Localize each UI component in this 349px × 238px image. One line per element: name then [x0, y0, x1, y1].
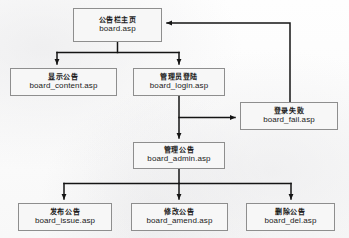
node-board-amend-title: 修改公告	[164, 209, 194, 216]
node-board-content[interactable]: 显示公告 board_content.asp	[10, 68, 117, 96]
node-board-content-file: board_content.asp	[30, 82, 98, 90]
node-board-content-title: 显示公告	[48, 74, 78, 81]
flowchart-diagram: 公告栏主页 board.asp 显示公告 board_content.asp 管…	[0, 0, 349, 238]
node-board-fail[interactable]: 登录失败 board_fail.asp	[240, 102, 338, 130]
node-board-file: board.asp	[99, 25, 135, 33]
node-board-fail-title: 登录失败	[274, 108, 304, 115]
node-board-admin-file: board_admin.asp	[147, 155, 210, 163]
node-board-login[interactable]: 管理员登陆 board_login.asp	[133, 68, 225, 96]
node-board-amend-file: board_amend.asp	[147, 217, 213, 225]
node-board-admin[interactable]: 管理公告 board_admin.asp	[133, 142, 225, 169]
node-board-fail-file: board_fail.asp	[263, 116, 315, 124]
node-board-del-file: board_del.asp	[264, 217, 316, 225]
node-board-del[interactable]: 删除公告 board_del.asp	[246, 203, 335, 231]
node-board-amend[interactable]: 修改公告 board_amend.asp	[131, 203, 228, 231]
node-board-admin-title: 管理公告	[164, 147, 194, 154]
node-board-title: 公告栏主页	[99, 17, 137, 24]
node-board-login-file: board_login.asp	[150, 82, 208, 90]
node-board-login-title: 管理员登陆	[160, 74, 198, 81]
node-board-del-title: 删除公告	[275, 209, 305, 216]
node-board[interactable]: 公告栏主页 board.asp	[73, 8, 162, 42]
node-board-issue-file: board_issue.asp	[35, 217, 95, 225]
node-board-issue-title: 发布公告	[50, 209, 80, 216]
node-board-issue[interactable]: 发布公告 board_issue.asp	[18, 203, 112, 231]
